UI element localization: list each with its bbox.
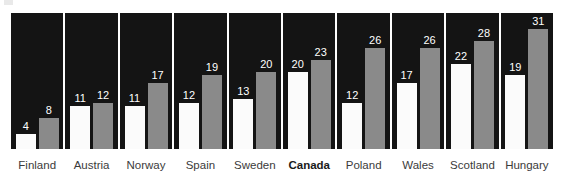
grouped-bar-chart: 48111211171219132020231226172622281931 F…	[0, 0, 562, 184]
bar-value-label: 12	[346, 89, 358, 102]
bar-rect	[311, 60, 331, 149]
bar-rect	[505, 75, 525, 149]
bar-value-label: 28	[478, 27, 490, 40]
bar-value-label: 20	[260, 58, 272, 71]
bar-gray-canada: 23	[311, 13, 331, 149]
bar-rect	[70, 106, 90, 149]
bar-gray-norway: 17	[148, 13, 168, 149]
chart-panel-finland: 48	[11, 13, 63, 149]
bar-group: 48	[11, 13, 63, 149]
bar-rect	[256, 72, 276, 149]
bar-value-label: 11	[129, 92, 140, 105]
bar-rect	[420, 48, 440, 149]
bar-gray-spain: 19	[202, 13, 222, 149]
chart-panel-austria: 1112	[65, 13, 117, 149]
bar-rect	[288, 72, 308, 149]
bar-rect	[365, 48, 385, 149]
bar-rect	[397, 83, 417, 149]
bar-value-label: 26	[369, 34, 381, 47]
bar-value-label: 20	[292, 58, 304, 71]
chart-panel-wales: 1726	[392, 13, 444, 149]
bar-rect	[342, 103, 362, 149]
bar-group: 1219	[174, 13, 226, 149]
bar-value-label: 19	[206, 61, 218, 74]
bar-group: 1931	[501, 13, 553, 149]
category-label-austria: Austria	[65, 155, 117, 177]
chart-panel-poland: 1226	[337, 13, 389, 149]
bar-group: 1117	[120, 13, 172, 149]
crop-artifact	[4, 0, 13, 5]
bar-rect	[451, 64, 471, 149]
bar-white-poland: 12	[342, 13, 362, 149]
bar-rect	[202, 75, 222, 149]
bar-white-austria: 11	[70, 13, 90, 149]
chart-panel-spain: 1219	[174, 13, 226, 149]
category-axis-labels: FinlandAustriaNorwaySpainSwedenCanadaPol…	[11, 155, 553, 177]
bar-group: 1112	[65, 13, 117, 149]
chart-panel-norway: 1117	[120, 13, 172, 149]
bar-value-label: 13	[237, 85, 249, 98]
bar-gray-wales: 26	[420, 13, 440, 149]
bar-rect	[233, 99, 253, 149]
category-label-norway: Norway	[120, 155, 172, 177]
bar-white-hungary: 19	[505, 13, 525, 149]
chart-plot-area: 48111211171219132020231226172622281931	[11, 13, 553, 149]
bar-gray-scotland: 28	[474, 13, 494, 149]
bar-value-label: 22	[455, 50, 467, 63]
bar-value-label: 26	[423, 34, 435, 47]
bar-white-spain: 12	[179, 13, 199, 149]
bar-white-sweden: 13	[233, 13, 253, 149]
bar-gray-austria: 12	[93, 13, 113, 149]
bar-gray-hungary: 31	[528, 13, 548, 149]
bar-gray-finland: 8	[39, 13, 59, 149]
bar-value-label: 31	[532, 15, 544, 28]
category-label-scotland: Scotland	[446, 155, 498, 177]
bar-value-label: 17	[400, 69, 412, 82]
chart-panel-canada: 2023	[283, 13, 335, 149]
category-label-wales: Wales	[392, 155, 444, 177]
category-label-spain: Spain	[174, 155, 226, 177]
category-label-hungary: Hungary	[501, 155, 553, 177]
bar-group: 1726	[392, 13, 444, 149]
bar-group: 1320	[229, 13, 281, 149]
chart-panel-sweden: 1320	[229, 13, 281, 149]
category-label-poland: Poland	[337, 155, 389, 177]
bar-white-canada: 20	[288, 13, 308, 149]
bar-value-label: 12	[97, 89, 109, 102]
bar-value-label: 19	[509, 61, 521, 74]
chart-panel-scotland: 2228	[446, 13, 498, 149]
bar-rect	[528, 29, 548, 149]
bar-gray-sweden: 20	[256, 13, 276, 149]
bar-white-finland: 4	[16, 13, 36, 149]
bar-rect	[125, 106, 145, 149]
bar-white-scotland: 22	[451, 13, 471, 149]
bar-group: 2023	[283, 13, 335, 149]
category-label-sweden: Sweden	[229, 155, 281, 177]
bar-value-label: 4	[23, 120, 29, 133]
bar-rect	[39, 118, 59, 149]
bar-rect	[179, 103, 199, 149]
bar-white-wales: 17	[397, 13, 417, 149]
bar-value-label: 12	[183, 89, 195, 102]
bar-gray-poland: 26	[365, 13, 385, 149]
bar-group: 2228	[446, 13, 498, 149]
bar-value-label: 17	[151, 69, 163, 82]
bar-value-label: 11	[74, 92, 85, 105]
bar-group: 1226	[337, 13, 389, 149]
bar-value-label: 8	[46, 104, 52, 117]
bar-white-norway: 11	[125, 13, 145, 149]
bar-rect	[16, 134, 36, 149]
chart-panel-hungary: 1931	[501, 13, 553, 149]
bar-rect	[148, 83, 168, 149]
category-label-finland: Finland	[11, 155, 63, 177]
category-label-canada: Canada	[283, 155, 335, 177]
bar-rect	[93, 103, 113, 149]
bar-rect	[474, 41, 494, 149]
bar-value-label: 23	[315, 46, 327, 59]
